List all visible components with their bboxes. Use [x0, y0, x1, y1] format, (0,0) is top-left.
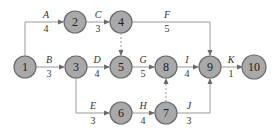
node-10: 10 — [242, 55, 266, 79]
node-6: 6 — [110, 102, 132, 124]
activity-label-A: A — [42, 9, 50, 20]
duration-label-H: 4 — [141, 115, 146, 126]
edge-F — [132, 22, 210, 55]
node-label: 5 — [118, 60, 124, 74]
node-label: 3 — [73, 60, 79, 74]
activity-label-G: G — [139, 54, 146, 65]
duration-label-K: 1 — [229, 68, 234, 79]
node-2: 2 — [64, 11, 86, 33]
activity-label-D: D — [92, 54, 101, 65]
duration-label-C: 3 — [96, 23, 101, 34]
duration-label-A: 4 — [44, 23, 49, 34]
duration-label-F: 5 — [165, 23, 170, 34]
node-8: 8 — [155, 56, 177, 78]
duration-label-B: 3 — [47, 68, 52, 79]
node-label: 10 — [248, 60, 260, 74]
node-label: 9 — [207, 60, 213, 74]
activity-label-B: B — [46, 54, 52, 65]
activity-label-K: K — [227, 54, 236, 65]
node-label: 7 — [163, 106, 169, 120]
node-label: 1 — [22, 60, 28, 74]
node-1: 1 — [14, 56, 36, 78]
node-4: 4 — [110, 11, 132, 33]
edge-J — [177, 79, 210, 113]
duration-label-G: 5 — [141, 68, 146, 79]
duration-label-I: 4 — [185, 68, 190, 79]
activity-label-E: E — [89, 100, 96, 111]
node-label: 4 — [118, 15, 124, 29]
node-label: 6 — [118, 106, 124, 120]
node-label: 2 — [72, 15, 78, 29]
activity-label-C: C — [95, 9, 102, 20]
activity-label-H: H — [138, 100, 147, 111]
activity-label-F: F — [163, 9, 171, 20]
activity-label-J: J — [187, 100, 192, 111]
duration-label-E: 3 — [91, 115, 96, 126]
node-3: 3 — [65, 56, 87, 78]
node-7: 7 — [155, 102, 177, 124]
node-9: 9 — [199, 56, 221, 78]
duration-label-J: 3 — [187, 115, 192, 126]
network-diagram: A 4 B 3 C 3 D 4 E 3 F 5 G 5 H 4 I 4 J 3 … — [0, 0, 277, 132]
activity-label-I: I — [184, 54, 189, 65]
node-label: 8 — [163, 60, 169, 74]
duration-label-D: 4 — [95, 68, 100, 79]
node-5: 5 — [110, 56, 132, 78]
